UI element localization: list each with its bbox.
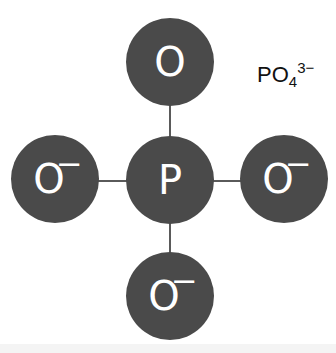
atom-charge: − — [56, 148, 83, 180]
atom-oxygen-right: O − — [240, 135, 328, 223]
bond-right — [212, 180, 241, 182]
bond-top — [169, 105, 171, 138]
atom-symbol-text: O — [154, 39, 185, 85]
atom-symbol: P — [158, 160, 182, 200]
atom-symbol: O − — [33, 159, 64, 199]
atom-oxygen-bottom: O − — [126, 252, 214, 340]
atom-symbol: O − — [148, 276, 179, 316]
atom-symbol: O — [154, 42, 185, 82]
bottom-edge-band — [0, 344, 336, 353]
atom-phosphorus-center: P — [126, 136, 214, 224]
atom-symbol-text: P — [158, 157, 182, 203]
atom-oxygen-left: O − — [11, 135, 99, 223]
bond-bottom — [169, 221, 171, 253]
atom-charge: − — [171, 265, 198, 297]
formula-label: PO43− — [257, 62, 314, 88]
formula-base: PO — [257, 62, 289, 87]
atom-oxygen-top: O — [126, 18, 214, 106]
formula-superscript: 3− — [297, 59, 314, 76]
bond-left — [98, 180, 128, 182]
atom-symbol: O − — [262, 159, 293, 199]
atom-charge: − — [285, 148, 312, 180]
formula-subscript: 4 — [289, 73, 297, 90]
